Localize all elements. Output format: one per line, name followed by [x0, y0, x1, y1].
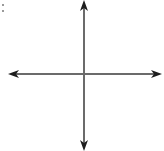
- coordinate-axes-diagram: [0, 0, 164, 151]
